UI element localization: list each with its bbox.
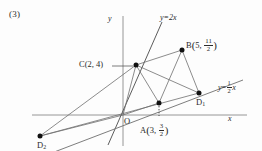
point-label-c: C(2, 4) [79,60,103,69]
segment-d2-origin [40,115,123,136]
line-half-rhs: x [232,83,236,92]
x-axis-label: x [228,115,232,123]
line-y-equals-half-x [28,80,243,151]
point-c-x: 2 [88,59,92,69]
point-c-y: 4 [96,59,100,69]
origin-label: O [124,117,130,126]
paren-close-b: ) [213,39,217,51]
segment-c-b [136,50,182,65]
fraction-denominator: 2 [227,87,232,95]
fraction-denominator: 2 [159,130,164,138]
line-2x-rhs: 2x [169,13,177,22]
segment-d2-d1 [40,93,199,136]
point-d2-subscript: 2 [43,144,46,150]
point-b-marker [180,48,185,53]
point-b-x: 5 [195,40,199,50]
fraction-numerator: 3 [159,123,164,130]
segment-d2-c [40,65,136,136]
problem-number: (3) [9,10,20,19]
line-half-eq: = [222,83,227,92]
point-d1-marker [197,91,202,96]
point-c-marker [134,63,139,68]
point-label-d2: D2 [37,141,46,151]
segment-o-c [123,65,136,115]
coordinate-geometry-figure: (3) y x O y=2x y=12x C(2, 4) B(5, 112) A… [0,0,262,151]
point-d1-subscript: 1 [202,101,205,107]
point-label-a: A(3, 32) [140,123,168,138]
fraction-three-halves: 32 [159,123,164,138]
segment-o-a [123,103,159,115]
paren-close-a: ) [165,124,169,136]
fraction-one-half: 12 [227,80,232,94]
point-label-b: B(5, 112) [186,38,217,53]
fraction-eleven-halves: 112 [204,38,213,53]
y-axis-label: y [108,15,112,23]
fraction-denominator: 2 [204,45,213,53]
fraction-numerator: 11 [204,38,213,45]
point-a-marker [157,101,162,106]
point-c-letter: C [79,59,85,69]
segment-c-a [136,65,159,103]
point-a-x: 3 [150,125,154,135]
line-y-equals-2x-label: y=2x [160,14,177,22]
figure-canvas [0,0,262,151]
line-y-equals-half-x-label: y=12x [218,80,236,94]
point-label-d1: D1 [196,98,205,108]
point-d2-marker [38,134,43,139]
